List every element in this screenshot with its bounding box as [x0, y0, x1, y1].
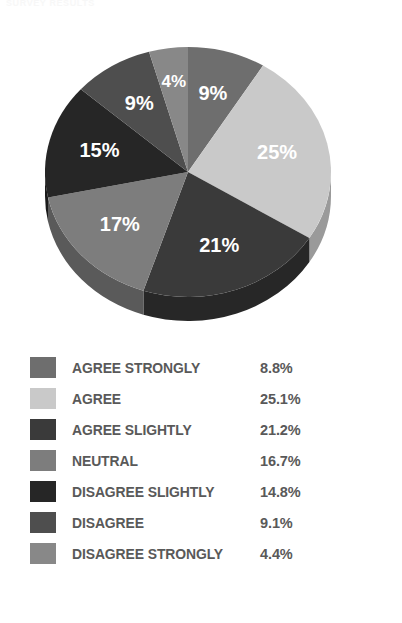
pie-slice-group	[45, 47, 331, 297]
legend-color-swatch	[30, 388, 56, 409]
legend-label: DISAGREE STRONGLY	[72, 546, 252, 562]
title-fragment: SURVEY RESULTS	[6, 0, 95, 6]
legend-label: DISAGREE	[72, 515, 252, 531]
legend-color-swatch	[30, 450, 56, 471]
legend-color-swatch	[30, 512, 56, 533]
pie-slice-label: 9%	[199, 82, 228, 104]
pie-slice-label: 4%	[162, 72, 187, 91]
legend-value: 9.1%	[260, 515, 293, 531]
legend-label: NEUTRAL	[72, 453, 252, 469]
pie-chart-figure: SURVEY RESULTS 9%25%21%17%15%9%4% AGREE …	[0, 0, 402, 623]
legend-color-swatch	[30, 481, 56, 502]
legend-row: AGREE STRONGLY8.8%	[30, 352, 375, 383]
pie-plot-area: 9%25%21%17%15%9%4%	[0, 20, 402, 340]
legend-value: 25.1%	[260, 391, 301, 407]
legend-row: AGREE25.1%	[30, 383, 375, 414]
legend-label: AGREE	[72, 391, 252, 407]
legend: AGREE STRONGLY8.8%AGREE25.1%AGREE SLIGHT…	[30, 352, 375, 569]
pie-slice-label: 17%	[100, 213, 140, 235]
legend-value: 21.2%	[260, 422, 301, 438]
legend-row: AGREE SLIGHTLY21.2%	[30, 414, 375, 445]
legend-color-swatch	[30, 419, 56, 440]
pie-slice-label: 25%	[257, 141, 297, 163]
legend-value: 14.8%	[260, 484, 301, 500]
pie-slice-label: 9%	[125, 92, 154, 114]
legend-label: AGREE STRONGLY	[72, 360, 252, 376]
legend-value: 4.4%	[260, 546, 293, 562]
pie-slice-label: 15%	[80, 139, 120, 161]
legend-row: DISAGREE STRONGLY4.4%	[30, 538, 375, 569]
legend-label: DISAGREE SLIGHTLY	[72, 484, 252, 500]
pie-slice-label: 21%	[199, 234, 239, 256]
legend-color-swatch	[30, 543, 56, 564]
legend-color-swatch	[30, 357, 56, 378]
legend-label: AGREE SLIGHTLY	[72, 422, 252, 438]
legend-value: 8.8%	[260, 360, 293, 376]
legend-row: NEUTRAL16.7%	[30, 445, 375, 476]
pie-svg: 9%25%21%17%15%9%4%	[0, 20, 402, 340]
legend-value: 16.7%	[260, 453, 301, 469]
legend-row: DISAGREE SLIGHTLY14.8%	[30, 476, 375, 507]
legend-row: DISAGREE9.1%	[30, 507, 375, 538]
